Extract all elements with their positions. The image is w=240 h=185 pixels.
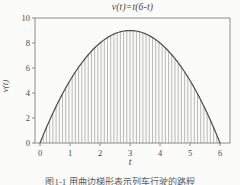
y-axis-label: v(t) — [0, 66, 12, 106]
y-tick-label: 10 — [22, 13, 31, 23]
y-tick-label: 8 — [26, 38, 30, 48]
y-tick-label: 0 — [26, 138, 30, 148]
y-tick-label: 4 — [26, 88, 31, 98]
figure: v(t)=t(6-t) 01234560246810 v(t) t 图1-1 用… — [0, 0, 240, 185]
y-tick-label: 6 — [26, 63, 30, 73]
y-tick-label: 2 — [26, 113, 30, 123]
x-axis-label: t — [40, 157, 220, 167]
figure-caption: 图1-1 用曲边梯形表示列车行驶的路程 — [0, 177, 240, 185]
